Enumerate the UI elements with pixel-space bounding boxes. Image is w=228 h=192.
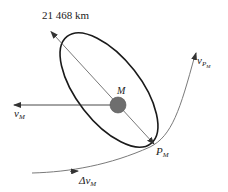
p-symbol: P	[156, 145, 163, 157]
planet-velocity-label: vM	[14, 108, 25, 121]
major-axis-arrow	[55, 36, 154, 144]
diagram-graphics	[0, 0, 228, 192]
p-subscript: M	[163, 151, 169, 159]
periapsis-label: PM	[156, 146, 169, 159]
v-subscript: M	[19, 113, 25, 121]
vp-subsubscript: M	[206, 64, 210, 69]
distance-label: 21 468 km	[42, 10, 89, 21]
delta-v-label: ΔvM	[79, 175, 96, 188]
planet-label: M	[117, 86, 125, 96]
dv-subscript: M	[90, 180, 96, 188]
dv-symbol: Δv	[79, 174, 90, 186]
approach-trajectory	[32, 55, 195, 173]
orbit-ellipse	[42, 17, 176, 164]
delta-v-arrowhead	[70, 171, 78, 172]
diagram-canvas: 21 468 km M vM PM vPM ΔvM	[0, 0, 228, 192]
periapsis-velocity-label: vPM	[197, 55, 210, 69]
planet-m	[110, 97, 126, 113]
